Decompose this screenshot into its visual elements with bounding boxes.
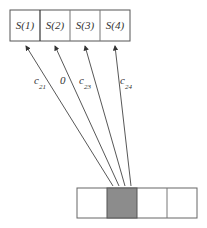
arrows bbox=[26, 46, 131, 186]
label-c21: c21 bbox=[34, 74, 46, 91]
label-zero: 0 bbox=[60, 74, 66, 86]
arrow-to-s3 bbox=[85, 46, 125, 186]
arrow-to-s4 bbox=[115, 46, 131, 186]
cell-s2-label: S(2) bbox=[46, 19, 65, 32]
label-c24: c24 bbox=[120, 74, 132, 91]
bottom-row bbox=[77, 188, 197, 218]
cell-s4-label: S(4) bbox=[106, 19, 125, 32]
cell-s1-label: S(1) bbox=[16, 19, 35, 32]
shaded-cell bbox=[107, 188, 137, 218]
diagram-canvas: S(1) S(2) S(3) S(4) c21 0 c23 c24 bbox=[0, 0, 207, 228]
arrow-to-s1 bbox=[26, 46, 113, 186]
arrow-to-s2 bbox=[55, 46, 119, 186]
top-row: S(1) S(2) S(3) S(4) bbox=[10, 10, 130, 41]
label-c23: c23 bbox=[79, 74, 91, 91]
cell-s3-label: S(3) bbox=[76, 19, 95, 32]
